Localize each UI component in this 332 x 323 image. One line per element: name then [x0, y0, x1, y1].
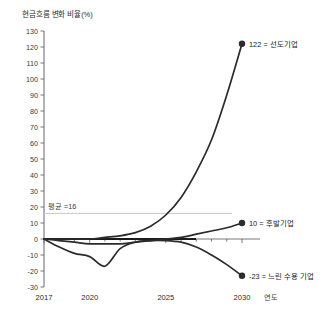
y-axis-tick-label: 130 — [26, 27, 38, 36]
y-axis-tick-label: 50 — [30, 155, 38, 164]
y-axis-tick-label: 60 — [30, 139, 38, 148]
x-axis-tick-label: 2025 — [157, 293, 174, 302]
average-reference-label: 평균 =16 — [48, 202, 76, 211]
y-axis-tick-label: -30 — [28, 283, 38, 292]
cash-flow-change-chart: 현금흐름 변화 비율(%) 13012011010090807060504030… — [0, 0, 332, 323]
chart-plot-area: 1301201101009080706050403020100-10-20-30… — [0, 0, 332, 323]
y-axis-tick-label: 120 — [26, 43, 38, 52]
series-endpoint-marker — [239, 41, 245, 47]
x-axis-label: 연도 — [264, 293, 278, 302]
x-axis-tick-label: 2020 — [81, 293, 98, 302]
y-axis-tick-label: 0 — [34, 235, 38, 244]
y-axis-tick-label: 20 — [30, 203, 38, 212]
series-endpoint-label: 122 = 선도기업 — [249, 40, 298, 49]
y-axis-tick-label: -10 — [28, 251, 38, 260]
series-endpoint-marker — [239, 220, 245, 226]
series-endpoint-label: 10 = 후발기업 — [249, 219, 294, 228]
y-axis-tick-label: 30 — [30, 187, 38, 196]
y-axis-tick-label: 40 — [30, 171, 38, 180]
x-axis-tick-label: 2017 — [36, 293, 53, 302]
series-endpoint-label: -23 = 느린 수용 기업 — [249, 272, 314, 281]
x-axis-tick-label: 2030 — [234, 293, 251, 302]
series-endpoint-marker — [239, 273, 245, 279]
y-axis-tick-label: -20 — [28, 267, 38, 276]
y-axis-tick-label: 10 — [30, 219, 38, 228]
y-axis-tick-label: 110 — [27, 59, 38, 68]
y-axis-tick-label: 100 — [26, 75, 38, 84]
y-axis-tick-label: 70 — [30, 123, 38, 132]
y-axis-tick-label: 80 — [30, 107, 38, 116]
series-line — [44, 239, 242, 276]
y-axis-tick-label: 90 — [30, 91, 38, 100]
